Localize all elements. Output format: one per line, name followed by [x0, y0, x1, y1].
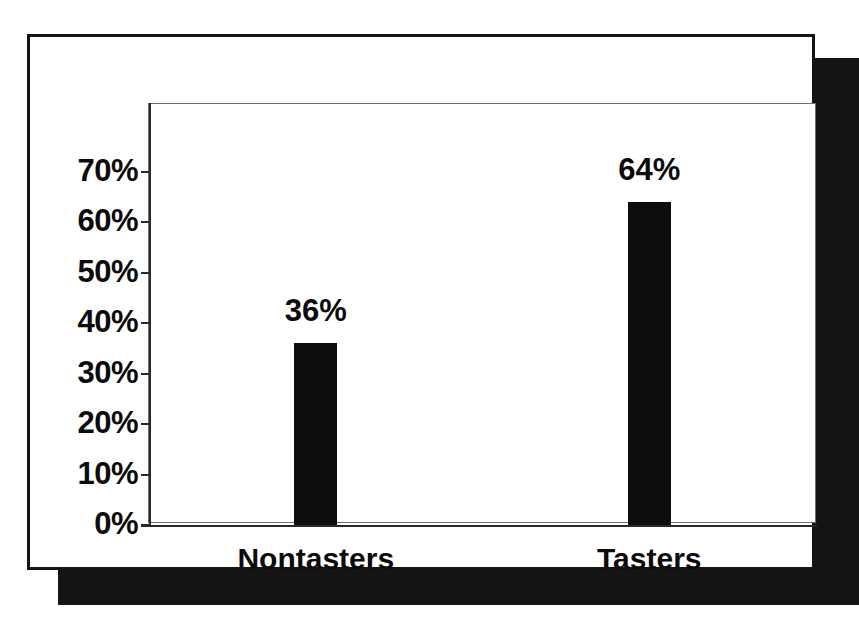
chart-screenshot: 0%10%20%30%40%50%60%70% 36%64% Nontaster… — [0, 0, 859, 622]
y-axis-tick-label: 40% — [38, 306, 138, 337]
y-axis-tick — [141, 524, 150, 526]
y-axis-tick-label: 0% — [38, 508, 138, 539]
bar — [294, 343, 337, 525]
y-axis-line — [149, 103, 151, 527]
x-axis-category-label: Nontasters — [186, 544, 446, 574]
y-axis-tick — [141, 322, 150, 324]
x-axis-line — [141, 525, 817, 527]
chart-panel: 0%10%20%30%40%50%60%70% 36%64% Nontaster… — [27, 34, 815, 570]
y-axis-tick-label: 20% — [38, 407, 138, 438]
bar-value-label: 64% — [569, 154, 729, 185]
y-axis-tick-label: 60% — [38, 205, 138, 236]
y-axis-tick — [141, 373, 150, 375]
y-axis-tick — [141, 423, 150, 425]
bar-value-label: 36% — [236, 295, 396, 326]
y-axis-tick — [141, 272, 150, 274]
y-axis-tick — [141, 221, 150, 223]
y-axis-tick-label: 10% — [38, 458, 138, 489]
y-tick-label-group: 0%10%20%30%40%50%60%70% — [30, 37, 138, 597]
y-axis-tick-label: 50% — [38, 256, 138, 287]
bar — [628, 202, 671, 525]
y-axis-tick-label: 30% — [38, 357, 138, 388]
x-axis-category-label: Tasters — [519, 544, 779, 574]
y-axis-tick — [141, 474, 150, 476]
y-axis-tick — [141, 171, 150, 173]
y-axis-tick-label: 70% — [38, 155, 138, 186]
